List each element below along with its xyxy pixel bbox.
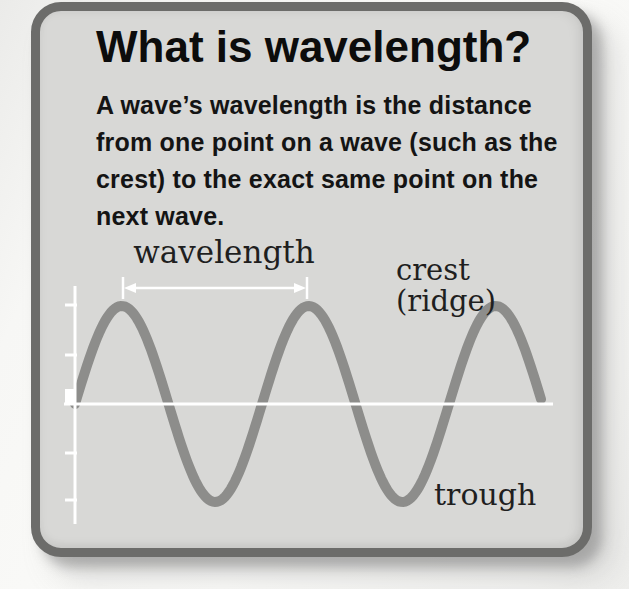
crest-label-line2: (ridge) [396, 286, 496, 317]
definition-paragraph: A wave’s wavelength is the distance from… [96, 87, 611, 235]
crest-label-line1: crest [396, 255, 496, 286]
definition-line: next wave. [96, 198, 611, 235]
page-title: What is wavelength? [96, 24, 531, 70]
wavelength-info-card: What is wavelength? A wave’s wavelength … [31, 2, 592, 557]
trough-label: trough [434, 477, 536, 512]
crest-label: crest (ridge) [396, 255, 496, 317]
definition-line: A wave’s wavelength is the distance [96, 87, 611, 124]
wavelength-label: wavelength [128, 234, 320, 270]
definition-line: crest) to the exact same point on the [96, 161, 611, 198]
definition-line: from one point on a wave (such as the [96, 124, 611, 161]
